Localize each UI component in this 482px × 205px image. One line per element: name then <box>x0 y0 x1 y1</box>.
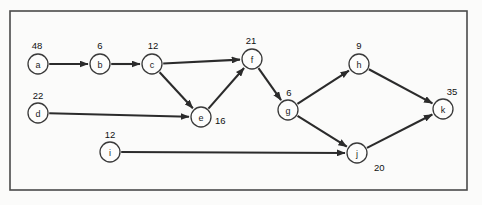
node-e[interactable]: e <box>191 107 211 127</box>
node-f[interactable]: f <box>242 49 262 69</box>
node-b[interactable]: b <box>90 54 110 74</box>
edge-g-to-j <box>298 116 347 147</box>
node-label-g: g <box>285 106 290 116</box>
node-a[interactable]: a <box>28 54 48 74</box>
diagram-border <box>10 11 467 190</box>
node-weight-e: 16 <box>215 115 226 126</box>
node-label-c: c <box>150 60 155 70</box>
node-h[interactable]: h <box>349 54 369 74</box>
diagram-canvas: abcdefghijk 4861222162169122035 <box>0 0 482 205</box>
edge-h-to-k <box>369 69 433 103</box>
node-weight-d: 22 <box>33 90 44 101</box>
node-label-j: j <box>355 149 358 159</box>
edge-f-to-g <box>258 68 281 100</box>
edge-g-to-h <box>297 71 349 104</box>
node-weight-k: 35 <box>447 86 458 97</box>
node-label-i: i <box>109 148 111 158</box>
nodes-group: abcdefghijk <box>28 49 453 163</box>
node-j[interactable]: j <box>347 143 367 163</box>
node-weight-a: 48 <box>32 40 43 51</box>
node-weight-j: 20 <box>374 162 385 173</box>
node-weight-b: 6 <box>97 40 102 51</box>
edge-i-to-j <box>121 152 345 153</box>
node-label-a: a <box>35 60 40 70</box>
node-label-b: b <box>97 60 102 70</box>
node-label-e: e <box>198 113 203 123</box>
node-weight-c: 12 <box>148 40 159 51</box>
node-label-k: k <box>441 105 446 115</box>
node-d[interactable]: d <box>28 103 48 123</box>
node-label-d: d <box>35 109 40 119</box>
edge-c-to-e <box>160 72 193 108</box>
node-label-h: h <box>356 60 361 70</box>
directed-graph: abcdefghijk 4861222162169122035 <box>0 0 482 205</box>
node-weight-f: 21 <box>246 35 257 46</box>
node-weight-i: 12 <box>105 129 116 140</box>
edge-j-to-k <box>367 114 432 147</box>
edge-d-to-e <box>49 113 189 116</box>
node-weight-h: 9 <box>356 40 361 51</box>
node-i[interactable]: i <box>100 142 120 162</box>
node-weight-g: 6 <box>286 87 291 98</box>
node-c[interactable]: c <box>142 54 162 74</box>
edge-e-to-f <box>208 68 244 109</box>
edge-c-to-f <box>163 60 240 64</box>
node-k[interactable]: k <box>433 99 453 119</box>
node-g[interactable]: g <box>278 100 298 120</box>
